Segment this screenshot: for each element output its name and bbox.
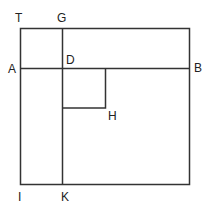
- label-H: H: [108, 110, 117, 122]
- label-A: A: [8, 63, 16, 75]
- label-T: T: [15, 12, 22, 24]
- label-G: G: [57, 12, 66, 24]
- geometry-figure: [0, 0, 210, 215]
- label-K: K: [61, 191, 69, 203]
- label-I: I: [18, 191, 21, 203]
- label-B: B: [194, 62, 202, 74]
- label-D: D: [66, 54, 75, 66]
- inner-rect-DH: [63, 68, 106, 108]
